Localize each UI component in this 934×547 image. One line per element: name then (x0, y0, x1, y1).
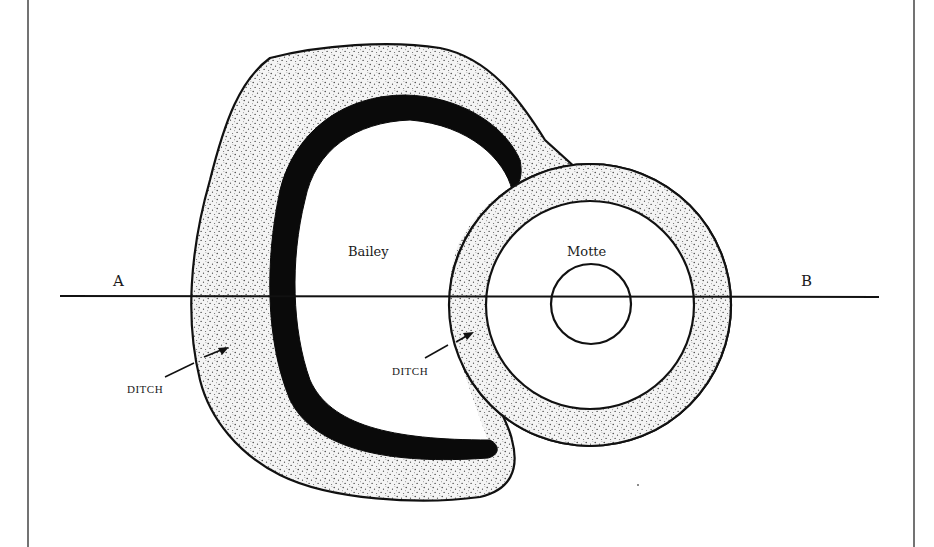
motte-bailey-diagram: A B Bailey Motte DITCH DITCH (0, 0, 934, 547)
motte-summit (551, 264, 631, 344)
bailey-label: Bailey (348, 244, 389, 259)
motte-label: Motte (567, 244, 607, 259)
ditch-right-label: DITCH (392, 365, 428, 377)
ditch-left-label: DITCH (127, 383, 163, 395)
section-line-a-b (60, 296, 879, 297)
ditch-left-leader (165, 363, 194, 377)
print-speck (637, 484, 639, 486)
section-label-b: B (801, 272, 812, 290)
section-label-a: A (112, 272, 124, 290)
